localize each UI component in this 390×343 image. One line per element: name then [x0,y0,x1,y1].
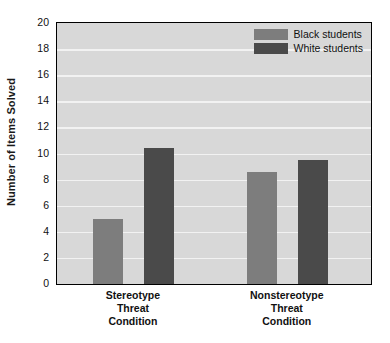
bar [298,160,328,284]
x-axis-category-label: StereotypeThreatCondition [106,289,160,328]
legend-item: White students [254,43,363,54]
y-axis-title: Number of Items Solved [0,0,22,283]
y-axis-tick-label: 10 [37,147,49,159]
bar [93,219,123,284]
bar [247,172,277,284]
y-axis-tick-label: 6 [43,199,49,211]
y-axis-tick-label: 16 [37,68,49,80]
gridline [57,101,371,103]
bar [144,148,174,284]
y-axis-tick-label: 0 [43,277,49,289]
gridline [57,75,371,77]
legend-item: Black students [254,29,363,40]
legend-swatch [254,43,288,54]
chart-legend: Black studentsWhite students [254,29,363,54]
y-axis-tick-labels: 20181614121086420 [22,0,54,343]
legend-label: Black students [294,29,362,40]
legend-swatch [254,29,288,40]
plot-area [57,23,371,284]
legend-label: White students [294,43,363,54]
x-axis-category-line: Condition [250,315,324,328]
x-axis-category-line: Threat [106,302,160,315]
gridline [57,127,371,129]
x-axis-category-labels: StereotypeThreatConditionNonstereotypeTh… [56,289,370,343]
y-axis-tick-label: 2 [43,251,49,263]
y-axis-tick-label: 8 [43,173,49,185]
y-axis-tick-label: 12 [37,120,49,132]
gridline [57,154,371,156]
x-axis-category-line: Threat [250,302,324,315]
x-axis-category-line: Stereotype [106,289,160,302]
y-axis-tick-label: 20 [37,16,49,28]
y-axis-tick-label: 18 [37,42,49,54]
y-axis-title-text: Number of Items Solved [5,77,17,205]
bar-chart: Number of Items Solved 20181614121086420… [0,0,390,343]
plot-frame: Black studentsWhite students [56,22,372,285]
x-axis-category-label: NonstereotypeThreatCondition [250,289,324,328]
x-axis-category-line: Nonstereotype [250,289,324,302]
y-axis-tick-label: 14 [37,94,49,106]
y-axis-tick-label: 4 [43,225,49,237]
x-axis-category-line: Condition [106,315,160,328]
